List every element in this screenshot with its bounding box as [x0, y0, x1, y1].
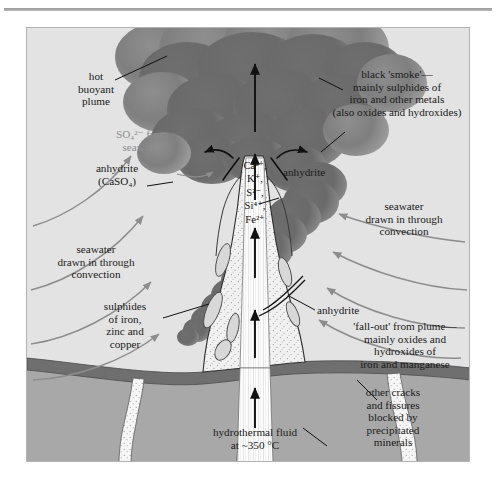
ion-si: Si⁴⁺,	[229, 199, 281, 212]
figure-root: hot buoyant plume SO₄²⁻ from seawater an…	[0, 0, 496, 479]
label-hot-buoyant-plume: hot buoyant plume	[65, 70, 127, 108]
label-other-cracks: other cracks and fissures blocked by pre…	[349, 386, 437, 449]
ion-fe: Fe²⁺	[229, 213, 281, 226]
label-anhydrite-top-right: anhydrite	[283, 166, 339, 179]
top-horizontal-rule	[4, 8, 492, 11]
ion-s: S²⁻,	[229, 186, 281, 199]
ion-species-list: Ca²⁺, K⁺, S²⁻, Si⁴⁺, Fe²⁺	[229, 159, 281, 226]
label-fallout-from-plume: 'fall-out' from plume— mainly oxides and…	[339, 320, 470, 370]
label-so4-from-seawater: SO₄²⁻ from seawater	[105, 128, 179, 153]
label-seawater-convection-right: seawater drawn in through convection	[343, 200, 465, 238]
label-anhydrite-caso4: anhydrite (CaSO₄)	[83, 162, 151, 187]
label-hydrothermal-fluid: hydrothermal fluid at ~350 °C	[175, 426, 335, 451]
label-black-smoke: black 'smoke'— mainly sulphides of iron …	[323, 68, 470, 118]
diagram-panel: hot buoyant plume SO₄²⁻ from seawater an…	[26, 27, 470, 462]
label-anhydrite-side-vent: anhydrite	[317, 304, 373, 317]
label-sulphides: sulphides of iron, zinc and copper	[89, 300, 161, 350]
label-seawater-convection-left: seawater drawn in through convection	[35, 243, 157, 281]
ion-k: K⁺,	[229, 172, 281, 185]
ion-ca: Ca²⁺,	[229, 159, 281, 172]
